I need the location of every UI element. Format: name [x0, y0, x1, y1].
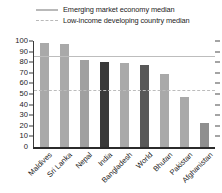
y-axis-tick-label: 30	[11, 111, 28, 119]
chart-figure: Emerging market economy median Low-incom…	[0, 0, 222, 193]
bar-world	[140, 65, 149, 147]
right-axis-tick-mark	[215, 83, 220, 84]
bar-sri-lanka	[60, 44, 69, 147]
bar-maldives	[40, 43, 49, 147]
bar-nepal	[80, 60, 89, 147]
y-axis-tick-mark	[29, 51, 33, 52]
y-axis-tick-label: 40	[11, 101, 28, 109]
reference-line-solid	[34, 56, 215, 57]
y-axis-tick-mark	[29, 94, 33, 95]
bar-pakistan	[180, 97, 189, 147]
y-axis-tick-label: 90	[11, 48, 28, 56]
right-axis-tick-mark	[215, 125, 220, 126]
legend-item-emerging-market: Emerging market economy median	[36, 4, 222, 15]
y-axis-tick-mark	[29, 125, 33, 126]
y-axis-tick-label: 80	[11, 58, 28, 66]
right-axis-tick-mark	[215, 104, 220, 105]
legend-dashed-line-icon	[36, 20, 58, 21]
y-axis-tick-label: 50	[11, 90, 28, 98]
y-axis-tick-mark	[29, 83, 33, 84]
y-axis-tick-mark	[29, 72, 33, 73]
y-axis-tick-mark	[29, 104, 33, 105]
right-axis-tick-mark	[215, 94, 220, 95]
y-axis-tick-mark	[29, 62, 33, 63]
y-axis-tick-label: 60	[11, 80, 28, 88]
legend-item-label: Emerging market economy median	[63, 5, 175, 14]
y-axis-tick-label: 20	[11, 122, 28, 130]
plot-area	[33, 41, 214, 147]
y-axis-tick-mark	[29, 41, 33, 42]
y-axis-tick-label: 100	[11, 37, 28, 45]
bar-india	[100, 62, 109, 147]
y-axis-tick-label: 70	[11, 69, 28, 77]
x-axis-labels: MaldivesSri LankaNepalIndiaBangladeshWor…	[0, 149, 222, 193]
y-axis-tick-label: 10	[11, 133, 28, 141]
legend-item-low-income: Low-income developing country median	[36, 15, 222, 26]
right-axis-tick-mark	[215, 115, 220, 116]
bar-bhutan	[160, 74, 169, 147]
right-axis-tick-mark	[215, 72, 220, 73]
y-axis-tick-mark	[29, 136, 33, 137]
right-axis-tick-mark	[215, 41, 220, 42]
right-axis-tick-mark	[215, 51, 220, 52]
bar-bangladesh	[120, 63, 129, 147]
right-axis-tick-mark	[215, 136, 220, 137]
chart-legend: Emerging market economy median Low-incom…	[36, 4, 222, 26]
y-axis-tick-mark	[29, 115, 33, 116]
legend-item-label: Low-income developing country median	[63, 16, 190, 25]
reference-line-dashed	[34, 90, 215, 91]
right-axis-tick-mark	[215, 62, 220, 63]
bar-afghanistan	[200, 123, 209, 147]
legend-solid-line-icon	[36, 9, 58, 11]
